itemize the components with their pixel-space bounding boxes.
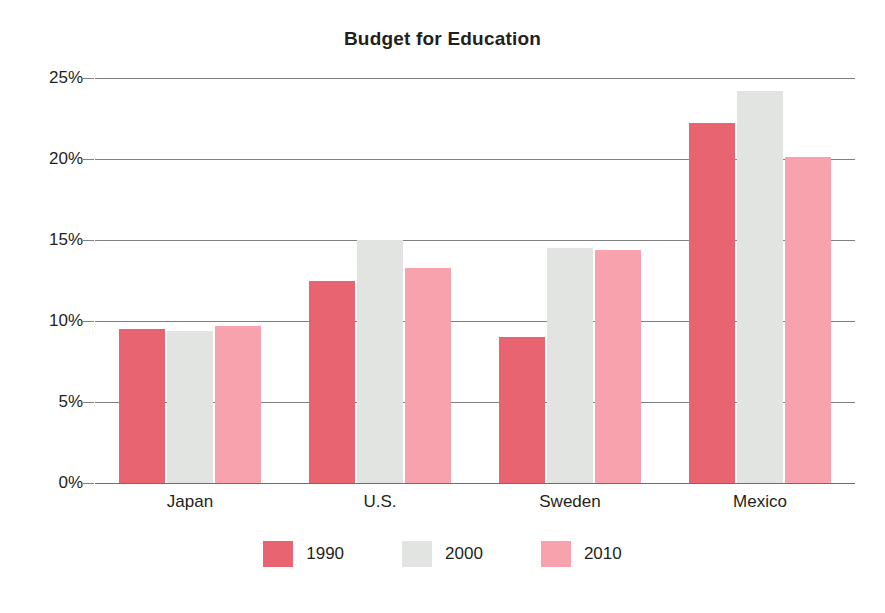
- bar-sweden-2000[interactable]: [547, 248, 593, 483]
- y-axis-tick-label: 25%: [49, 68, 83, 88]
- legend-swatch-2000: [402, 541, 432, 567]
- bar-sweden-1990[interactable]: [499, 337, 545, 483]
- legend-swatch-2010: [541, 541, 571, 567]
- legend-label-2010: 2010: [584, 544, 622, 564]
- legend-swatch-1990: [263, 541, 293, 567]
- bar-mexico-2000[interactable]: [737, 91, 783, 483]
- plot-area: 0%5%10%15%20%25%: [95, 78, 855, 483]
- y-axis-tick-label: 20%: [49, 149, 83, 169]
- y-axis-tick-label: 5%: [58, 392, 83, 412]
- legend-label-1990: 1990: [306, 544, 344, 564]
- y-axis-tick-mark: [83, 159, 94, 160]
- y-axis-tick-mark: [83, 78, 94, 79]
- y-axis-tick-mark: [83, 321, 94, 322]
- bar-sweden-2010[interactable]: [595, 250, 641, 483]
- bar-chart: Budget for Education 0%5%10%15%20%25% Ja…: [0, 0, 885, 613]
- bar-japan-2000[interactable]: [167, 331, 213, 483]
- bar-us-2000[interactable]: [357, 240, 403, 483]
- y-axis-tick-mark: [83, 483, 94, 484]
- legend-item-2010[interactable]: 2010: [541, 541, 622, 567]
- x-axis-label-us: U.S.: [285, 492, 475, 512]
- y-axis-tick-mark: [83, 240, 94, 241]
- x-axis-label-japan: Japan: [95, 492, 285, 512]
- y-axis-tick-label: 10%: [49, 311, 83, 331]
- x-axis-label-sweden: Sweden: [475, 492, 665, 512]
- bar-mexico-2010[interactable]: [785, 157, 831, 483]
- y-axis-tick-mark: [83, 402, 94, 403]
- legend-item-2000[interactable]: 2000: [402, 541, 483, 567]
- chart-legend: 199020002010: [0, 541, 885, 567]
- y-axis-tick-label: 0%: [58, 473, 83, 493]
- gridline-25: [95, 78, 855, 79]
- chart-title: Budget for Education: [0, 28, 885, 50]
- y-axis-tick-label: 15%: [49, 230, 83, 250]
- x-axis-label-mexico: Mexico: [665, 492, 855, 512]
- legend-label-2000: 2000: [445, 544, 483, 564]
- bar-japan-2010[interactable]: [215, 326, 261, 483]
- bar-mexico-1990[interactable]: [689, 123, 735, 483]
- legend-item-1990[interactable]: 1990: [263, 541, 344, 567]
- bar-us-1990[interactable]: [309, 281, 355, 484]
- gridline-0: [95, 483, 855, 484]
- bar-japan-1990[interactable]: [119, 329, 165, 483]
- bar-us-2010[interactable]: [405, 268, 451, 483]
